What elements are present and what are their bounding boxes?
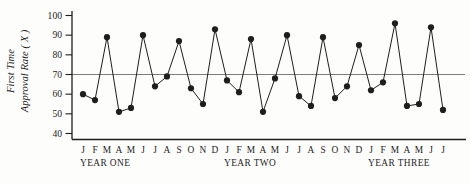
y-tick-label: 100	[48, 10, 63, 21]
month-label: M	[391, 145, 400, 155]
month-label: A	[116, 145, 123, 155]
data-point	[356, 42, 362, 48]
y-tick-label: 70	[52, 69, 62, 80]
y-axis-title-line2: Approval Rate ( X )	[19, 29, 31, 113]
data-point	[404, 103, 410, 109]
month-label: F	[380, 145, 385, 155]
data-point	[188, 85, 194, 91]
data-point	[416, 101, 422, 107]
data-point	[224, 77, 230, 83]
month-label: J	[369, 145, 373, 155]
run-chart-canvas: First Time Approval Rate ( X ) 100908070…	[0, 0, 470, 183]
data-point	[212, 26, 218, 32]
data-point	[176, 38, 182, 44]
year-group-label: YEAR TWO	[224, 158, 276, 168]
month-label: M	[415, 145, 424, 155]
data-point	[140, 32, 146, 38]
data-point	[152, 83, 158, 89]
y-axis-title-line1: First Time	[5, 49, 16, 94]
data-point	[380, 79, 386, 85]
month-label: A	[404, 145, 411, 155]
month-label: J	[429, 145, 433, 155]
y-tick-label: 40	[52, 128, 62, 139]
month-label: A	[260, 145, 267, 155]
month-label: J	[153, 145, 157, 155]
year-group-label: YEAR THREE	[368, 158, 430, 168]
data-point	[440, 107, 446, 113]
y-tick-label: 80	[52, 49, 62, 60]
data-point	[116, 109, 122, 115]
data-point	[128, 105, 134, 111]
month-label: J	[297, 145, 301, 155]
data-point	[296, 93, 302, 99]
month-label: N	[344, 145, 351, 155]
month-label: J	[141, 145, 145, 155]
data-point	[344, 83, 350, 89]
month-label: A	[308, 145, 315, 155]
month-label: J	[225, 145, 229, 155]
data-point	[428, 24, 434, 30]
data-point	[92, 97, 98, 103]
data-point	[200, 101, 206, 107]
data-point	[320, 34, 326, 40]
month-label: F	[236, 145, 241, 155]
month-label: D	[212, 145, 219, 155]
month-label: S	[176, 145, 181, 155]
data-point	[392, 20, 398, 26]
y-tick-label: 60	[52, 88, 62, 99]
month-label: D	[356, 145, 363, 155]
month-label: J	[285, 145, 289, 155]
data-point	[164, 73, 170, 79]
data-point	[368, 87, 374, 93]
approval-rate-run-chart-figure: First Time Approval Rate ( X ) 100908070…	[0, 0, 470, 183]
y-tick-label: 90	[52, 29, 62, 40]
month-label: M	[247, 145, 256, 155]
data-point	[332, 95, 338, 101]
data-point	[284, 32, 290, 38]
data-point	[248, 36, 254, 42]
year-group-label: YEAR ONE	[80, 158, 130, 168]
month-label: N	[200, 145, 207, 155]
data-point	[236, 89, 242, 95]
month-label: J	[441, 145, 445, 155]
month-label: F	[92, 145, 97, 155]
y-tick-label: 50	[52, 108, 62, 119]
month-label: M	[103, 145, 112, 155]
month-label: J	[81, 145, 85, 155]
month-label: S	[320, 145, 325, 155]
data-point	[80, 91, 86, 97]
month-label: M	[271, 145, 280, 155]
month-label: O	[188, 145, 195, 155]
month-label: O	[332, 145, 339, 155]
month-label: M	[127, 145, 136, 155]
data-point	[104, 34, 110, 40]
data-point	[260, 109, 266, 115]
data-point	[272, 75, 278, 81]
month-label: A	[164, 145, 171, 155]
data-point	[308, 103, 314, 109]
data-line	[83, 23, 443, 112]
